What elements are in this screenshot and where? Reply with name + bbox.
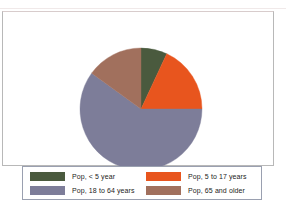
pie-chart-svg: [79, 47, 203, 171]
chart-plot-area: [2, 11, 274, 166]
legend-label-under-5: Pop, < 5 year: [72, 172, 115, 181]
legend-item-65-and-older[interactable]: Pop, 65 and older: [142, 183, 258, 197]
legend-row: Pop, 18 to 64 years Pop, 65 and older: [26, 183, 258, 197]
legend-swatch-5-to-17: [146, 172, 181, 181]
legend-item-18-to-64[interactable]: Pop, 18 to 64 years: [26, 183, 142, 197]
legend-label-65-and-older: Pop, 65 and older: [188, 186, 245, 195]
legend-label-5-to-17: Pop, 5 to 17 years: [188, 172, 247, 181]
legend-item-under-5[interactable]: Pop, < 5 year: [26, 169, 142, 183]
scan-artifact-line: [0, 8, 286, 9]
legend-swatch-65-and-older: [146, 186, 181, 195]
legend-item-5-to-17[interactable]: Pop, 5 to 17 years: [142, 169, 258, 183]
legend-swatch-18-to-64: [30, 186, 65, 195]
legend-label-18-to-64: Pop, 18 to 64 years: [72, 186, 135, 195]
legend-row: Pop, < 5 year Pop, 5 to 17 years: [26, 169, 258, 183]
pie-chart: [79, 47, 203, 171]
legend-swatch-under-5: [30, 172, 65, 181]
chart-legend: Pop, < 5 year Pop, 5 to 17 years Pop, 18…: [22, 166, 262, 200]
